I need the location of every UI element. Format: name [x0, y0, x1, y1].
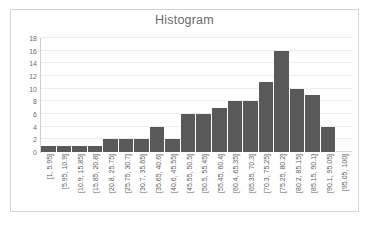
histogram-bar[interactable]	[41, 146, 57, 152]
x-axis-slot: [85.15, 90.1]	[305, 154, 321, 210]
x-axis-tick-label: [20.8, 25.75]	[107, 154, 114, 193]
bar-slot	[336, 38, 352, 152]
x-axis-slot: [55.45, 60.4]	[212, 154, 228, 210]
histogram-bar[interactable]	[88, 146, 104, 152]
x-axis-slot: [45.55, 50.5]	[181, 154, 197, 210]
y-axis-tick-label: 16	[29, 47, 37, 54]
x-axis-tick-label: [5.95, 10.9]	[61, 154, 68, 189]
bar-slot	[212, 38, 228, 152]
plot-area	[41, 38, 352, 152]
histogram-bar[interactable]	[290, 89, 306, 152]
bar-slot	[196, 38, 212, 152]
bar-series	[41, 38, 352, 152]
x-axis-tick-label: [95.05, 100]	[341, 154, 348, 191]
x-axis-slot: [1, 5.95]	[41, 154, 57, 210]
bar-slot	[243, 38, 259, 152]
bar-slot	[41, 38, 57, 152]
x-axis-slot: [75.25, 80.2]	[274, 154, 290, 210]
bar-slot	[228, 38, 244, 152]
bar-slot	[305, 38, 321, 152]
x-axis-tick-label: [80.2, 85.15]	[294, 154, 301, 193]
x-axis-slot: [40.6, 45.55]	[165, 154, 181, 210]
bar-slot	[290, 38, 306, 152]
bar-slot	[72, 38, 88, 152]
histogram-bar[interactable]	[228, 101, 244, 152]
histogram-bar[interactable]	[150, 127, 166, 152]
x-axis-slot: [10.9, 15.85]	[72, 154, 88, 210]
histogram-bar[interactable]	[103, 139, 119, 152]
x-axis-tick-label: [55.45, 60.4]	[216, 154, 223, 193]
histogram-bar[interactable]	[165, 139, 181, 152]
bar-slot	[57, 38, 73, 152]
x-axis: [1, 5.95][5.95, 10.9][10.9, 15.85][15.85…	[41, 154, 352, 210]
y-axis-tick-label: 4	[33, 123, 37, 130]
bar-slot	[321, 38, 337, 152]
y-axis: 181614121086420	[11, 38, 39, 152]
histogram-bar[interactable]	[259, 82, 275, 152]
histogram-bar[interactable]	[181, 114, 197, 152]
x-axis-tick-label: [15.85, 20.8]	[92, 154, 99, 193]
x-axis-tick-label: [25.75, 30.7]	[123, 154, 130, 193]
histogram-bar[interactable]	[57, 146, 73, 152]
x-axis-tick-label: [45.55, 50.5]	[185, 154, 192, 193]
x-axis-tick-label: [65.35, 70.3]	[247, 154, 254, 193]
y-axis-tick-label: 2	[33, 136, 37, 143]
histogram-bar[interactable]	[243, 101, 259, 152]
x-axis-slot: [15.85, 20.8]	[88, 154, 104, 210]
y-axis-tick-label: 14	[29, 60, 37, 67]
bar-slot	[165, 38, 181, 152]
y-axis-tick-label: 10	[29, 85, 37, 92]
histogram-bar[interactable]	[72, 146, 88, 152]
bar-slot	[103, 38, 119, 152]
x-axis-tick-label: [85.15, 90.1]	[310, 154, 317, 193]
y-axis-tick-label: 18	[29, 35, 37, 42]
x-axis-tick-label: [40.6, 45.55]	[170, 154, 177, 193]
x-axis-tick-label: [30.7, 35.65]	[139, 154, 146, 193]
histogram-bar[interactable]	[134, 139, 150, 152]
x-axis-slot: [60.4, 65.35]	[228, 154, 244, 210]
bar-slot	[150, 38, 166, 152]
x-axis-tick-label: [50.5, 55.45]	[201, 154, 208, 193]
histogram-bar[interactable]	[119, 139, 135, 152]
x-axis-slot: [25.75, 30.7]	[119, 154, 135, 210]
x-axis-tick-label: [60.4, 65.35]	[232, 154, 239, 193]
y-axis-tick-label: 6	[33, 110, 37, 117]
x-axis-slot: [65.35, 70.3]	[243, 154, 259, 210]
x-axis-tick-label: [70.3, 75.25]	[263, 154, 270, 193]
histogram-bar[interactable]	[274, 51, 290, 152]
histogram-bar[interactable]	[212, 108, 228, 152]
y-axis-tick-label: 0	[33, 149, 37, 156]
bar-slot	[119, 38, 135, 152]
x-axis-tick-label: [1, 5.95]	[45, 154, 52, 179]
x-axis-slot: [50.5, 55.45]	[196, 154, 212, 210]
histogram-bar[interactable]	[305, 95, 321, 152]
histogram-bar[interactable]	[196, 114, 212, 152]
bar-slot	[88, 38, 104, 152]
x-axis-slot: [5.95, 10.9]	[57, 154, 73, 210]
chart-title: Histogram	[11, 13, 358, 27]
x-axis-slot: [35.65, 40.6]	[150, 154, 166, 210]
x-axis-slot: [20.8, 25.75]	[103, 154, 119, 210]
x-axis-tick-label: [90.1, 95.05]	[325, 154, 332, 193]
x-axis-tick-label: [10.9, 15.85]	[76, 154, 83, 193]
x-axis-slot: [80.2, 85.15]	[290, 154, 306, 210]
bar-slot	[274, 38, 290, 152]
x-axis-tick-label: [75.25, 80.2]	[278, 154, 285, 193]
x-axis-slot: [90.1, 95.05]	[321, 154, 337, 210]
y-axis-tick-label: 12	[29, 72, 37, 79]
bar-slot	[181, 38, 197, 152]
y-axis-tick-label: 8	[33, 98, 37, 105]
x-axis-tick-label: [35.65, 40.6]	[154, 154, 161, 193]
x-axis-slot: [70.3, 75.25]	[259, 154, 275, 210]
chart-container: Histogram 181614121086420 [1, 5.95][5.95…	[10, 9, 359, 212]
bar-slot	[134, 38, 150, 152]
bar-slot	[259, 38, 275, 152]
x-axis-slot: [95.05, 100]	[336, 154, 352, 210]
x-axis-slot: [30.7, 35.65]	[134, 154, 150, 210]
histogram-bar[interactable]	[321, 127, 337, 152]
